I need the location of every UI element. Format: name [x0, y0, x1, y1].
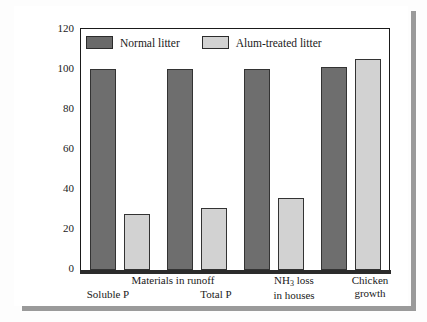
x-group-header-materials-in-runoff: Materials in runoff	[98, 274, 248, 286]
x-label-chicken-growth: Chickengrowth	[320, 274, 420, 299]
y-tick-label-20: 20	[48, 223, 74, 234]
x-label-chicken: Chicken	[352, 274, 389, 286]
bar-alum-chicken-growth	[355, 59, 381, 270]
y-tick-label-0: 0	[48, 263, 74, 274]
bar-chart: 120 100 80 60 40 20 0 Percentage of cont…	[14, 6, 408, 306]
x-label-soluble-p: Soluble P	[58, 288, 158, 301]
x-label-growth: growth	[354, 287, 385, 299]
bars-layer	[81, 29, 389, 270]
x-label-nh3-subscript: 3	[290, 279, 294, 288]
bar-alum-soluble-p	[124, 214, 150, 270]
bar-normal-chicken-growth	[321, 67, 347, 270]
y-tick-label-120: 120	[48, 23, 74, 34]
bar-alum-total-p	[201, 208, 227, 270]
figure-page: 120 100 80 60 40 20 0 Percentage of cont…	[0, 0, 427, 322]
y-tick-label-80: 80	[48, 103, 74, 114]
bar-normal-total-p	[167, 69, 193, 270]
y-tick-label-40: 40	[48, 183, 74, 194]
y-tick-label-100: 100	[48, 63, 74, 74]
bar-alum-nh3-loss	[278, 198, 304, 270]
x-label-in-houses: in houses	[273, 289, 314, 301]
bar-normal-nh3-loss	[244, 69, 270, 270]
y-axis: 120 100 80 60 40 20 0	[44, 6, 74, 306]
page-shadow-right	[411, 11, 416, 311]
x-axis-labels: Materials in runoff Soluble P Total P NH…	[14, 274, 408, 308]
bar-normal-soluble-p	[90, 69, 116, 270]
y-tick-label-60: 60	[48, 143, 74, 154]
x-label-nh3-text: NH3 loss	[274, 274, 314, 286]
